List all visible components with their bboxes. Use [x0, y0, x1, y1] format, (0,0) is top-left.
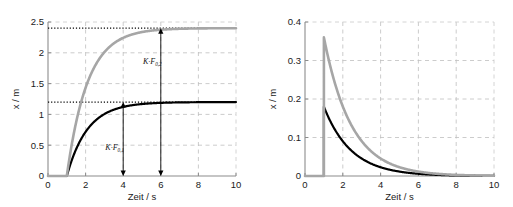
y-tick-label: 1	[39, 109, 44, 120]
x-tick-label: 8	[196, 179, 201, 190]
two-panel-chart: K·F0,1K·F0,2024681000.511.522.5Zeit / sx…	[0, 0, 513, 207]
x-tick-label: 0	[302, 179, 307, 190]
y-tick-label: 0.2	[288, 93, 301, 104]
x-tick-label: 6	[158, 179, 163, 190]
y-tick-label: 2.5	[31, 16, 44, 27]
y-tick-label: 0	[296, 170, 301, 181]
y-tick-label: 2	[39, 47, 44, 58]
y-tick-label: 0	[39, 170, 44, 181]
y-tick-label: 0.1	[288, 132, 301, 143]
annot-kf02-label-subscript: 0,2	[155, 61, 162, 67]
annot-kf01-label-main: K·F	[104, 143, 117, 152]
y-tick-label: 0.5	[31, 140, 44, 151]
x-tick-label: 2	[83, 179, 88, 190]
annot-kf01-label-subscript: 0,1	[118, 147, 125, 153]
y-tick-label: 0.3	[288, 55, 301, 66]
x-tick-label: 0	[45, 179, 50, 190]
x-axis-title: Zeit / s	[385, 191, 414, 202]
x-tick-label: 6	[416, 179, 421, 190]
x-tick-label: 10	[489, 179, 500, 190]
y-axis-title: x / m	[267, 89, 278, 110]
y-axis-title: x / m	[10, 89, 21, 110]
figure-container: K·F0,1K·F0,2024681000.511.522.5Zeit / sx…	[0, 0, 513, 207]
x-tick-label: 4	[378, 179, 383, 190]
x-tick-label: 8	[454, 179, 459, 190]
x-tick-label: 4	[121, 179, 126, 190]
y-tick-label: 1.5	[31, 78, 44, 89]
annot-kf02-label-main: K·F	[142, 57, 155, 66]
x-tick-label: 10	[231, 179, 242, 190]
x-axis-title: Zeit / s	[128, 191, 157, 202]
y-tick-label: 0.4	[288, 16, 301, 27]
x-tick-label: 2	[340, 179, 345, 190]
